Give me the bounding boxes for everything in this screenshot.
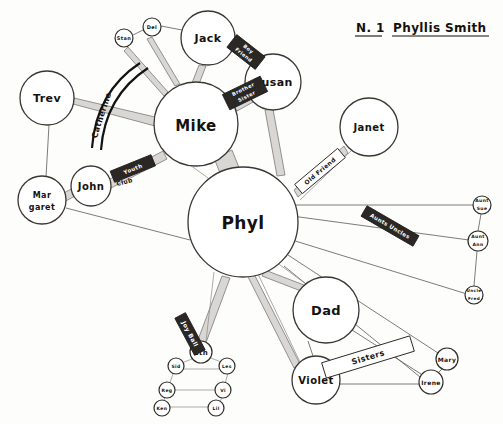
node-label-dad: Dad	[311, 303, 341, 318]
edge-trev-margaret	[46, 125, 49, 177]
node-label-trev: Trev	[33, 92, 61, 105]
node-label-phyl: Phyl	[221, 213, 264, 233]
node-label-small-b: Les	[222, 364, 232, 369]
edge-auntsue-auntann	[478, 214, 481, 231]
node-label-small-f: Lil	[212, 406, 219, 411]
sociogram-sheet: Catherine Phyl Mike Trev Jack Susan Jane…	[0, 0, 503, 424]
node-label-jack: Jack	[194, 32, 222, 45]
node-label-mary: Mary	[438, 356, 457, 364]
edge-del-jack	[161, 26, 182, 30]
node-label-aunt-sue-line2: Sue	[477, 206, 488, 211]
node-label-mike: Mike	[175, 117, 216, 135]
node-label-aunt-ann-line1: Aunt	[471, 234, 485, 239]
node-label-del: Del	[147, 24, 157, 30]
edge-auntann-unclefred	[474, 251, 477, 286]
edge-label-aunts-uncles: Aunts Uncles	[369, 212, 411, 240]
node-label-uncle-fred-line2: Fred	[468, 296, 480, 301]
node-label-small-e: Ken	[157, 406, 168, 411]
edge-dad-violet	[308, 341, 313, 356]
node-label-margaret-line1: Mar	[33, 191, 52, 200]
node-label-small-a: Sid	[171, 364, 180, 369]
node-label-small-d: Vi	[220, 388, 226, 393]
node-label-aunt-sue-line1: Aunt	[475, 198, 489, 203]
title-number: N. 1	[356, 21, 385, 35]
node-layer: Phyl Mike Trev Jack Susan Janet John Mar…	[18, 11, 491, 416]
edge-mike-jack	[192, 65, 206, 84]
node-label-uncle-fred-line1: Uncle	[466, 288, 481, 293]
edge-mike-phyl-thin	[190, 165, 208, 178]
edge-margaret-phyl	[66, 208, 190, 240]
edge-phyl-dad	[262, 270, 304, 291]
node-label-margaret-line2: garet	[29, 203, 55, 212]
node-label-irene: Irene	[421, 379, 441, 386]
edge-phyl-eth	[196, 276, 230, 348]
edge-stan-del	[133, 30, 143, 35]
node-margaret[interactable]	[18, 176, 66, 224]
edge-susan-phyl	[265, 109, 285, 176]
node-label-small-c: Reg	[162, 388, 173, 393]
node-label-janet: Janet	[352, 122, 384, 133]
title-name: Phyllis Smith	[393, 21, 487, 35]
node-label-aunt-ann-line2: Ann	[472, 242, 483, 247]
node-label-stan: Stan	[117, 35, 132, 41]
node-label-john: John	[77, 181, 104, 192]
title-group: N. 1 Phyllis Smith	[355, 21, 489, 36]
